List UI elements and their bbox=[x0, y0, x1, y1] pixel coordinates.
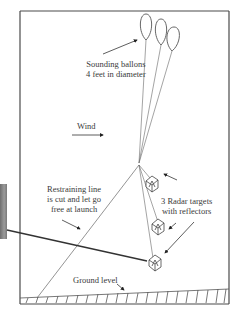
ground-pointer-arrow bbox=[117, 284, 124, 290]
radar-pointer-arrow bbox=[169, 223, 176, 229]
radar-pointer-arrow bbox=[164, 174, 177, 180]
radar-targets-label: 3 Radar targets with reflectors bbox=[161, 196, 212, 216]
photo-callout-line bbox=[7, 230, 147, 261]
radar-target-icon bbox=[149, 255, 161, 271]
radar-targets bbox=[146, 176, 164, 271]
ground-hatching bbox=[26, 289, 226, 303]
radar-target-icon bbox=[146, 176, 158, 192]
diagram-graphics bbox=[0, 0, 241, 323]
ground-level-label: Ground level bbox=[73, 275, 118, 285]
balloon-icon bbox=[167, 27, 180, 51]
frame bbox=[20, 11, 229, 304]
balloons-label: Sounding ballons 4 feet in diameter bbox=[86, 59, 146, 79]
balloon-icon bbox=[155, 19, 166, 45]
restraining-pointer-arrow bbox=[62, 220, 80, 229]
balloon-icon bbox=[140, 14, 151, 40]
ground-level-line bbox=[20, 289, 229, 303]
radar-pointer-arrow bbox=[165, 222, 194, 253]
radar-target-icon bbox=[152, 219, 164, 235]
balloon-launch-diagram: Sounding ballons 4 feet in diameter Wind… bbox=[0, 0, 241, 323]
balloon-pointer-arrow bbox=[103, 40, 137, 54]
restraining-line-label: Restraining line is cut and let go free … bbox=[47, 184, 101, 214]
wind-label: Wind bbox=[77, 121, 96, 131]
sounding-balloons bbox=[140, 14, 179, 51]
